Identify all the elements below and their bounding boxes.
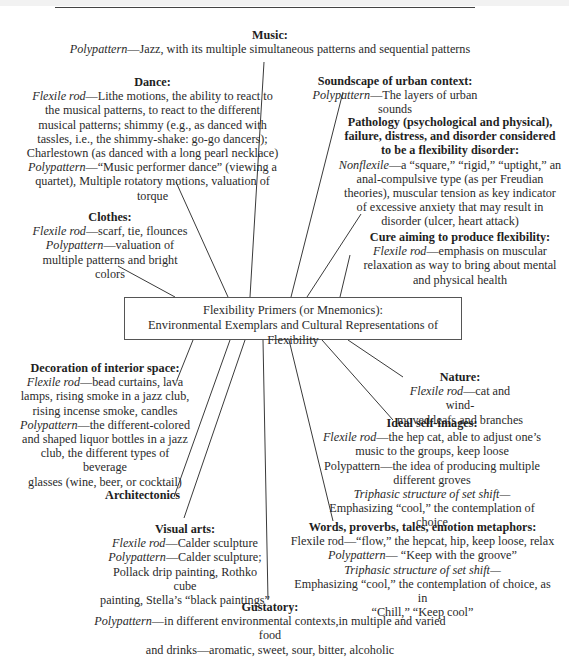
node-title: Gustatory: <box>90 600 450 614</box>
node-visual-arts: Visual arts: Flexile rod—Calder sculptur… <box>100 522 270 607</box>
node-title: Architectonics <box>100 488 180 502</box>
node-title: Words, proverbs, tales, emotion metaphor… <box>290 520 555 534</box>
node-title: Visual arts: <box>100 522 270 536</box>
node-title: Decoration of interior space: <box>20 361 190 375</box>
link-cure <box>340 255 350 297</box>
node-title: Soundscape of urban context: <box>310 74 480 88</box>
node-title: Ideal self-images: <box>322 416 542 430</box>
node-decoration: Decoration of interior space: Flexile ro… <box>20 361 190 489</box>
node-pathology: Pathology (psychological and physical), … <box>335 115 565 229</box>
node-gustatory: Gustatory: Polypattern—in different envi… <box>90 600 450 657</box>
node-title: Pathology (psychological and physical), <box>335 115 565 129</box>
node-title: Music: <box>60 28 480 42</box>
link-ideal-self <box>322 340 393 420</box>
node-title: Cure aiming to produce flexibility: <box>360 230 560 244</box>
node-ideal-self-images: Ideal self-images: Flexile rod—the hep c… <box>322 416 542 530</box>
node-architectonics: Architectonics <box>100 488 180 502</box>
node-dance: Dance: Flexile rod—Lithe motions, the ab… <box>20 75 285 203</box>
node-music: Music: Polypattern—Jazz, with its multip… <box>60 28 480 56</box>
link-visual-arts <box>184 340 245 518</box>
node-title: Nature: <box>395 370 525 384</box>
node-title: Clothes: <box>30 210 190 224</box>
center-title-line1: Flexibility Primers (or Mnemonics): <box>125 303 461 318</box>
central-concept-box: Flexibility Primers (or Mnemonics): Envi… <box>124 297 462 340</box>
node-soundscape: Soundscape of urban context: Polypattern… <box>310 74 480 117</box>
node-cure: Cure aiming to produce flexibility: Flex… <box>360 230 560 287</box>
node-title: Dance: <box>20 75 285 89</box>
node-line: Polypattern—Jazz, with its multiple simu… <box>60 42 480 56</box>
node-clothes: Clothes: Flexile rod—scarf, tie, flounce… <box>30 210 190 281</box>
center-title-line2: Environmental Exemplars and Cultural Rep… <box>125 318 461 348</box>
